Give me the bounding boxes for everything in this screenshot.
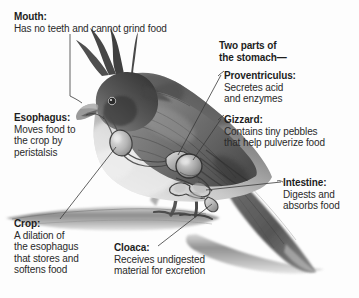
- callout-proventriculus: Proventriculus: Secretes acid and enzyme…: [224, 70, 296, 105]
- callout-crop-header: Crop:: [14, 218, 79, 230]
- callout-mouth-line-0: Has no teeth and cannot grind food: [14, 23, 167, 35]
- callout-proventriculus-line-1: and enzymes: [224, 93, 296, 105]
- callout-esophagus-header: Esophagus:: [14, 112, 76, 124]
- callout-intestine-line-0: Digests and: [283, 189, 340, 201]
- digestive-tract-overlay: [103, 115, 218, 212]
- callout-crop-line-0: A dilation of: [14, 230, 79, 242]
- callout-esophagus-line-0: Moves food to: [14, 124, 76, 136]
- leader-cloaca: [158, 204, 212, 246]
- callout-esophagus: Esophagus: Moves food to the crop by per…: [14, 112, 76, 158]
- callout-gizzard-line-0: Contains tiny pebbles: [224, 126, 325, 138]
- callout-crop-line-3: softens food: [14, 264, 79, 276]
- callout-intestine-line-1: absorbs food: [283, 200, 340, 212]
- legs-illustration: [154, 185, 212, 219]
- callout-mouth: Mouth: Has no teeth and cannot grind foo…: [14, 11, 167, 34]
- cloaca-organ: [205, 197, 218, 212]
- callout-intestine-header: Intestine:: [283, 177, 340, 189]
- callout-crop-line-1: the esophagus: [14, 241, 79, 253]
- callout-cloaca-line-0: Receives undigested: [114, 254, 205, 266]
- proventriculus-organ: [166, 151, 190, 171]
- callout-proventriculus-line-0: Secretes acid: [224, 82, 296, 94]
- callout-cloaca-header: Cloaca:: [114, 242, 205, 254]
- leader-proventriculus: [178, 75, 221, 155]
- intestine-organ: [170, 176, 212, 198]
- callout-esophagus-line-2: peristalsis: [14, 147, 76, 159]
- callout-crop-line-2: that stores and: [14, 253, 79, 265]
- leader-gizzard: [193, 119, 221, 160]
- callout-gizzard-header: Gizzard:: [224, 114, 325, 126]
- leader-intestine: [206, 182, 281, 190]
- callout-intestine: Intestine: Digests and absorbs food: [283, 177, 340, 212]
- callout-mouth-header: Mouth:: [14, 11, 167, 23]
- head-illustration: [76, 28, 172, 131]
- callout-cloaca-line-1: material for excretion: [114, 265, 205, 277]
- bird-digestive-system-diagram: Mouth: Has no teeth and cannot grind foo…: [0, 0, 359, 298]
- callout-stomach-header: Two parts of: [219, 40, 287, 52]
- crop-organ: [108, 128, 135, 158]
- callout-crop: Crop: A dilation of the esophagus that s…: [14, 218, 79, 276]
- callout-esophagus-line-1: the crop by: [14, 135, 76, 147]
- gizzard-organ: [176, 154, 202, 178]
- leader-esophagus: [86, 114, 104, 119]
- callout-stomach: Two parts of the stomach—: [219, 40, 287, 63]
- callout-proventriculus-header: Proventriculus:: [224, 70, 296, 82]
- callout-gizzard-line-1: that help pulverize food: [224, 137, 325, 149]
- callout-cloaca: Cloaca: Receives undigested material for…: [114, 242, 205, 277]
- callout-stomach-line-0: the stomach—: [219, 52, 287, 64]
- callout-gizzard: Gizzard: Contains tiny pebbles that help…: [224, 114, 325, 149]
